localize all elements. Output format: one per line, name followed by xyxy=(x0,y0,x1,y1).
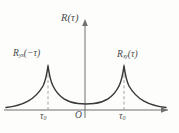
right-peak-label: Rxy(τ) xyxy=(117,50,138,60)
x-tick-label-left: τ0 xyxy=(40,112,46,122)
x-tick-label-right: τ0 xyxy=(119,112,125,122)
origin-label: O xyxy=(75,111,82,121)
y-axis-arrow-icon xyxy=(82,19,88,26)
y-axis-label-text: R(τ) xyxy=(61,12,79,23)
x-tick-label-left-subscript: 0 xyxy=(44,115,47,121)
left-peak-label: Ryx(−τ) xyxy=(13,49,40,59)
y-axis-label: R(τ) xyxy=(61,13,79,24)
right-peak-label-argument: (τ) xyxy=(128,49,138,59)
origin-label-text: O xyxy=(75,110,82,120)
left-peak-label-argument: (−τ) xyxy=(24,48,41,58)
x-tick-label-right-subscript: 0 xyxy=(123,115,126,121)
plot-canvas xyxy=(0,0,179,133)
correlation-function-figure: R(τ) Ryx(−τ) Rxy(τ) τ0 τ0 O xyxy=(0,0,179,133)
correlation-curve xyxy=(6,66,166,108)
